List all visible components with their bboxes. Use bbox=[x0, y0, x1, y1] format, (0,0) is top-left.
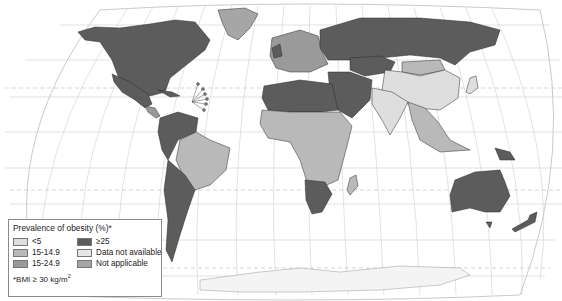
legend-swatch bbox=[13, 238, 28, 246]
legend-grid: <5 ≥25 15-14.9 Data not available 15-24.… bbox=[13, 237, 157, 268]
legend-label: 15-14.9 bbox=[32, 248, 60, 257]
legend-label: 15-24.9 bbox=[32, 259, 60, 268]
legend-label: Data not available bbox=[96, 248, 162, 257]
legend-swatch bbox=[77, 260, 92, 268]
legend-item-not-applicable: Not applicable bbox=[77, 259, 162, 268]
footnote-text: *BMI ≥ 30 kg/m bbox=[13, 275, 68, 284]
legend-item-no-data: Data not available bbox=[77, 248, 162, 257]
legend-footnote: *BMI ≥ 30 kg/m2 bbox=[13, 273, 157, 284]
legend-item-15-14-9: 15-14.9 bbox=[13, 248, 71, 257]
legend-swatch bbox=[13, 249, 28, 257]
legend-swatch bbox=[77, 249, 92, 257]
legend-label: ≥25 bbox=[96, 237, 110, 246]
footnote-superscript: 2 bbox=[68, 273, 71, 279]
legend-label: <5 bbox=[32, 237, 41, 246]
legend-item-15-24-9: 15-24.9 bbox=[13, 259, 71, 268]
legend-swatch bbox=[13, 260, 28, 268]
legend-swatch bbox=[77, 238, 92, 246]
legend-label: Not applicable bbox=[96, 259, 148, 268]
legend-item-lt5: <5 bbox=[13, 237, 71, 246]
legend-title: Prevalence of obesity (%)* bbox=[13, 223, 157, 233]
region-north-africa bbox=[262, 80, 338, 112]
legend: Prevalence of obesity (%)* <5 ≥25 15-14.… bbox=[8, 219, 162, 297]
legend-item-gte25: ≥25 bbox=[77, 237, 162, 246]
